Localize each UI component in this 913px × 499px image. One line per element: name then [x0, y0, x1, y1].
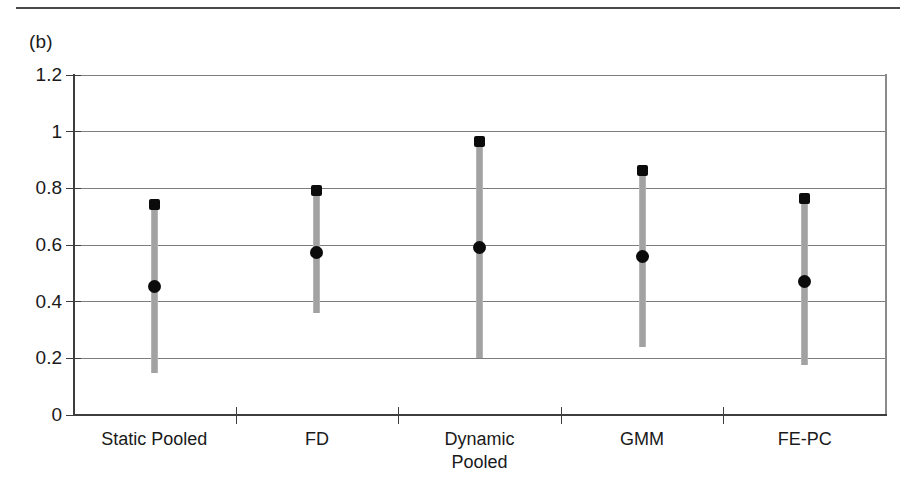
point-estimate-3 [636, 250, 649, 263]
y-tick-label-1: 1 [2, 122, 62, 141]
y-tick-label-0.8: 0.8 [2, 178, 62, 197]
point-estimate-0 [148, 280, 161, 293]
x-axis-label-gmm: GMM [561, 428, 724, 451]
x-tick-2 [398, 407, 399, 424]
y-tick-label-0.4: 0.4 [2, 292, 62, 311]
gridline-1.2 [73, 75, 886, 76]
x-axis-label-fe-pc: FE-PC [723, 428, 886, 451]
top-divider-rule [16, 7, 900, 9]
x-axis-label-static-pooled: Static Pooled [73, 428, 236, 451]
upper-marker-4 [799, 193, 810, 204]
point-estimate-4 [798, 275, 811, 288]
x-tick-1 [236, 407, 237, 424]
x-axis-label-dynamic-pooled: Dynamic Pooled [398, 428, 561, 474]
point-estimate-2 [473, 241, 486, 254]
y-tick-label-0: 0 [2, 405, 62, 424]
gridline-1 [73, 131, 886, 132]
upper-marker-0 [149, 199, 160, 210]
upper-marker-3 [637, 165, 648, 176]
x-tick-3 [561, 407, 562, 424]
y-tick-label-1.2: 1.2 [2, 65, 62, 84]
plot-right-border [885, 74, 887, 416]
figure-panel-b: (b) 00.20.40.60.811.2 Static PooledFDDyn… [0, 0, 913, 499]
y-tick-label-0.2: 0.2 [2, 348, 62, 367]
y-axis-labels: 00.20.40.60.811.2 [0, 0, 62, 499]
point-estimate-1 [310, 246, 323, 259]
x-tick-4 [723, 407, 724, 424]
upper-marker-1 [311, 185, 322, 196]
y-tick-label-0.6: 0.6 [2, 235, 62, 254]
x-axis-line [73, 414, 887, 416]
upper-marker-2 [474, 136, 485, 147]
x-axis-label-fd: FD [236, 428, 399, 451]
y-axis-line [73, 74, 75, 416]
